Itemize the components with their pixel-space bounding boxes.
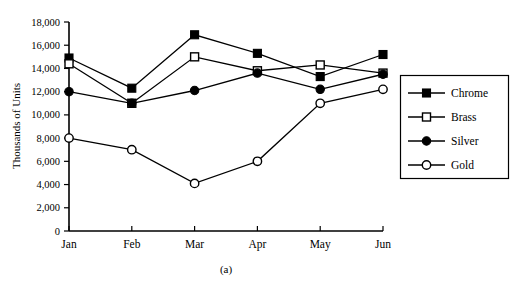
legend-marker-gold [422, 161, 430, 169]
legend-label-silver: Silver [451, 135, 479, 147]
x-axis-label-apr: Apr [248, 238, 266, 251]
legend-marker-chrome [423, 89, 431, 97]
x-axis-label-mar: Mar [185, 238, 204, 250]
y-tick-label: 10,000 [31, 109, 60, 120]
x-axis-label-may: May [310, 238, 331, 251]
data-point-silver-mar [190, 86, 198, 94]
data-point-brass-mar [191, 53, 199, 61]
x-axis-label-jun: Jun [375, 238, 391, 250]
y-tick-label: 8,000 [36, 133, 60, 144]
figure-caption: (a) [220, 263, 233, 276]
data-point-silver-may [316, 85, 324, 93]
y-tick-label: 14,000 [31, 63, 60, 74]
data-point-brass-jan [65, 60, 73, 68]
y-tick-label: 16,000 [31, 40, 60, 51]
data-point-silver-jun [379, 70, 387, 78]
data-point-chrome-feb [128, 84, 136, 92]
x-axis-label-jan: Jan [61, 238, 77, 250]
x-axis-label-feb: Feb [123, 238, 141, 250]
data-point-silver-feb [128, 99, 136, 107]
chart-legend: ChromeBrassSilverGold [401, 76, 509, 179]
data-point-chrome-may [316, 73, 324, 81]
data-point-silver-apr [253, 69, 261, 77]
chart-figure: Thousands of Units 02,0004,0006,0008,000… [0, 0, 514, 285]
line-chart: Thousands of Units 02,0004,0006,0008,000… [0, 0, 514, 285]
legend-label-chrome: Chrome [451, 87, 488, 99]
y-tick-label: 0 [55, 226, 60, 237]
data-point-chrome-mar [191, 31, 199, 39]
y-tick-label: 6,000 [36, 156, 60, 167]
legend-label-brass: Brass [451, 111, 477, 123]
data-point-gold-jun [379, 85, 387, 93]
y-tick-label: 2,000 [36, 202, 60, 213]
y-axis-title: Thousands of Units [10, 83, 22, 169]
y-tick-label: 12,000 [31, 86, 60, 97]
data-point-gold-feb [128, 146, 136, 154]
data-point-brass-may [316, 61, 324, 69]
data-point-chrome-jun [379, 51, 387, 59]
legend-label-gold: Gold [451, 159, 474, 171]
y-axis-title-label: Thousands of Units [10, 83, 22, 169]
data-point-silver-jan [65, 87, 73, 95]
y-tick-label: 4,000 [36, 179, 60, 190]
data-point-gold-jan [65, 134, 73, 142]
data-point-gold-mar [190, 179, 198, 187]
data-point-chrome-apr [253, 49, 261, 57]
data-point-gold-may [316, 99, 324, 107]
y-tick-label: 18,000 [31, 17, 60, 28]
data-point-gold-apr [253, 157, 261, 165]
legend-marker-silver [422, 137, 430, 145]
legend-marker-brass [423, 113, 431, 121]
